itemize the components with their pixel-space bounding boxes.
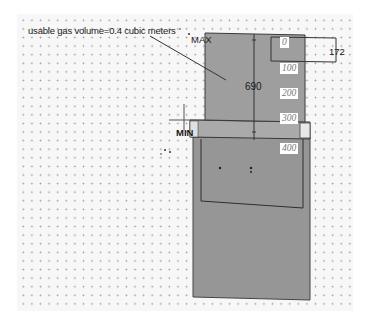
scale-tick-100: 100: [280, 63, 298, 74]
scale-tick-0: 0: [280, 37, 289, 48]
scale-tick-200: 200: [280, 88, 298, 99]
scale-tick-400: 400: [280, 143, 298, 154]
gas-holder-drawing: [0, 0, 370, 326]
min-level-label: MIN: [176, 127, 193, 138]
gas-holder-bell: [205, 33, 305, 122]
water-tank-body: [193, 137, 310, 300]
scale-tick-300: 300: [280, 113, 298, 124]
max-level-label: MAX: [191, 34, 212, 45]
height-dimension-label: 690: [245, 81, 262, 92]
width-dimension-label: 172: [329, 46, 345, 57]
usable-gas-volume-annotation: usable gas volume=0.4 cubic meters: [28, 25, 176, 36]
